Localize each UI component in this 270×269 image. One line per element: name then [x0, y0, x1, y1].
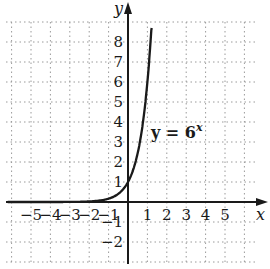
y-tick-label: −1	[101, 213, 123, 231]
exponential-chart: xy−5−4−3−2−112345−2−112345678y = 6x	[0, 0, 270, 269]
x-tick-label: 2	[162, 206, 172, 224]
y-axis-arrow-icon	[124, 2, 132, 14]
x-tick-label: 4	[201, 206, 211, 224]
y-tick-label: −2	[101, 233, 123, 251]
y-tick-label: 2	[113, 153, 123, 171]
exponential-curve	[8, 28, 152, 202]
y-tick-label: 5	[113, 93, 123, 111]
y-axis-label: y	[113, 0, 124, 18]
chart-container: xy−5−4−3−2−112345−2−112345678y = 6x	[0, 0, 270, 269]
y-tick-label: 6	[113, 73, 123, 91]
x-tick-label: 1	[143, 206, 153, 224]
x-tick-label: 5	[220, 206, 230, 224]
y-tick-label: 1	[113, 173, 123, 191]
y-tick-label: 7	[113, 53, 123, 71]
x-tick-label: 3	[181, 206, 191, 224]
x-axis-label: x	[256, 205, 265, 224]
y-tick-label: 8	[113, 33, 123, 51]
y-tick-label: 4	[113, 113, 123, 131]
equation-label: y = 6x	[150, 121, 203, 142]
y-tick-label: 3	[113, 133, 123, 151]
